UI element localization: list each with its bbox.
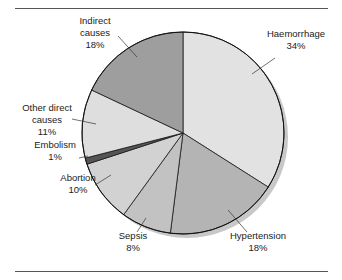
slice-label: Haemorrhage34% — [267, 28, 325, 52]
slice-name: Sepsis — [119, 230, 148, 242]
slice-label: Embolism1% — [34, 139, 76, 163]
slice-name: Hypertension — [230, 230, 286, 242]
slice-percent: 10% — [60, 184, 95, 196]
slice-name: causes — [79, 27, 110, 39]
slice-name: causes — [22, 114, 72, 126]
slice-percent: 8% — [119, 242, 148, 254]
slice-percent: 1% — [34, 151, 76, 163]
slice-name: Other direct — [22, 102, 72, 114]
slice-percent: 11% — [22, 126, 72, 138]
slice-name: Haemorrhage — [267, 28, 325, 40]
slice-percent: 34% — [267, 40, 325, 52]
slice-name: Embolism — [34, 139, 76, 151]
slice-name: Abortion — [60, 172, 95, 184]
slice-label: Sepsis8% — [119, 230, 148, 254]
slice-percent: 18% — [230, 242, 286, 254]
slice-label: Other directcauses11% — [22, 102, 72, 138]
slice-name: Indirect — [79, 15, 110, 27]
slice-label: Indirectcauses18% — [79, 15, 110, 51]
slice-label: Hypertension18% — [230, 230, 286, 254]
slice-percent: 18% — [79, 39, 110, 51]
slice-label: Abortion10% — [60, 172, 95, 196]
